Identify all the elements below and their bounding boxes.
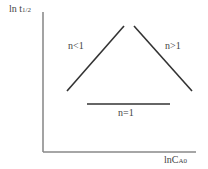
x-axis-label-main: lnC: [164, 154, 178, 165]
y-axis-label-sub: 1/2: [22, 6, 31, 14]
diagram-canvas: [0, 0, 208, 169]
x-axis-label-sub: A0: [178, 157, 187, 165]
label-n-less-1: n<1: [68, 40, 84, 51]
label-n-equal-1: n=1: [118, 107, 134, 118]
label-n-greater-1: n>1: [165, 40, 181, 51]
y-axis-label: ln t1/2: [9, 3, 31, 14]
x-axis-label: lnCA0: [164, 154, 187, 165]
line-n-less-1: [67, 26, 124, 91]
y-axis-label-main: ln t: [9, 3, 22, 14]
line-n-greater-1: [134, 26, 192, 91]
